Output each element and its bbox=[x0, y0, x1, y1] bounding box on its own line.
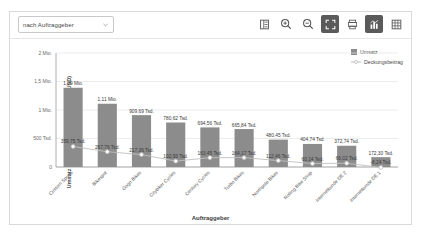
x-axis-title: Auftraggeber bbox=[10, 215, 411, 221]
deckungsbeitrag-point-1[interactable] bbox=[105, 150, 109, 154]
svg-text:480,45 Tsd.: 480,45 Tsd. bbox=[266, 133, 291, 138]
chart-canvas: 0500 Tsd.1 Mio.1,5 Mio.2 Mio.1,39 Mio.1,… bbox=[10, 39, 411, 225]
deckungsbeitrag-point-7[interactable] bbox=[311, 162, 315, 166]
svg-text:909,69 Tsd.: 909,69 Tsd. bbox=[129, 109, 154, 114]
svg-text:694,56 Tsd.: 694,56 Tsd. bbox=[198, 121, 223, 126]
x-tick-6: Northpole Bikes bbox=[252, 170, 280, 198]
legend-toggle-button[interactable] bbox=[255, 15, 273, 33]
deckungsbeitrag-point-0[interactable] bbox=[71, 145, 75, 149]
deckungsbeitrag-point-5[interactable] bbox=[242, 156, 246, 160]
x-tick-8: Internetkunde DE 2 bbox=[315, 170, 348, 203]
chart-view-button[interactable] bbox=[365, 15, 383, 33]
svg-text:1,5 Mio.: 1,5 Mio. bbox=[34, 78, 52, 84]
svg-text:359,75 Tsd.: 359,75 Tsd. bbox=[61, 139, 86, 144]
svg-text:-8,24 Tsd.: -8,24 Tsd. bbox=[370, 160, 391, 165]
svg-text:500 Tsd.: 500 Tsd. bbox=[33, 135, 52, 141]
svg-text:66,02 Tsd.: 66,02 Tsd. bbox=[336, 156, 358, 161]
chart-plot-area: Umsatz (USD) und Deckungsbeitrag (USD) U… bbox=[10, 39, 411, 225]
svg-text:217,36 Tsd.: 217,36 Tsd. bbox=[129, 148, 154, 153]
deckungsbeitrag-point-6[interactable] bbox=[276, 159, 280, 163]
x-tick-4: Century Cycles bbox=[184, 170, 211, 197]
svg-text:172,30 Tsd.: 172,30 Tsd. bbox=[369, 151, 394, 156]
table-view-button[interactable] bbox=[387, 15, 405, 33]
x-tick-5: Turbo Bikes bbox=[223, 170, 245, 192]
x-tick-3: Citybiker Cycles bbox=[149, 170, 177, 198]
zoom-in-button[interactable] bbox=[277, 15, 295, 33]
svg-text:665,84 Tsd.: 665,84 Tsd. bbox=[232, 123, 257, 128]
svg-text:112,46 Tsd.: 112,46 Tsd. bbox=[266, 154, 290, 159]
bar-2[interactable] bbox=[132, 115, 151, 167]
svg-text:0: 0 bbox=[49, 164, 52, 170]
x-tick-0: Custom Sports bbox=[48, 170, 74, 196]
bar-5[interactable] bbox=[235, 129, 254, 167]
deckungsbeitrag-point-4[interactable] bbox=[208, 156, 212, 160]
x-tick-9: Internetkunde DE 1 bbox=[349, 170, 382, 203]
svg-text:404,74 Tsd.: 404,74 Tsd. bbox=[300, 137, 325, 142]
chart-card: nach Auftraggeber bbox=[9, 11, 412, 225]
svg-text:1,11 Mio.: 1,11 Mio. bbox=[98, 97, 117, 102]
deckungsbeitrag-point-3[interactable] bbox=[174, 159, 178, 163]
svg-text:60,14 Tsd.: 60,14 Tsd. bbox=[301, 157, 323, 162]
deckungsbeitrag-point-2[interactable] bbox=[140, 153, 144, 157]
svg-text:2 Mio.: 2 Mio. bbox=[38, 50, 52, 56]
x-tick-7: Rolling Bike Shop bbox=[283, 170, 314, 201]
toolbar-buttons bbox=[255, 15, 405, 33]
x-tick-1: Bikespot bbox=[91, 170, 108, 187]
deckungsbeitrag-point-9[interactable] bbox=[379, 166, 383, 170]
svg-text:372,74 Tsd.: 372,74 Tsd. bbox=[334, 139, 359, 144]
chart-toolbar: nach Auftraggeber bbox=[10, 12, 411, 39]
svg-text:1 Mio.: 1 Mio. bbox=[38, 107, 52, 113]
deckungsbeitrag-point-8[interactable] bbox=[345, 161, 349, 165]
grouping-dropdown-value: nach Auftraggeber bbox=[23, 22, 74, 28]
svg-text:267,76 Tsd.: 267,76 Tsd. bbox=[95, 145, 120, 150]
zoom-out-button[interactable] bbox=[299, 15, 317, 33]
fullscreen-button[interactable] bbox=[321, 15, 339, 33]
chevron-down-icon bbox=[102, 21, 109, 28]
bar-1[interactable] bbox=[98, 104, 117, 167]
svg-text:164,17 Tsd.: 164,17 Tsd. bbox=[232, 151, 257, 156]
bar-4[interactable] bbox=[200, 127, 219, 167]
x-tick-2: Gogo Bikes bbox=[121, 170, 142, 191]
svg-text:102,93 Tsd.: 102,93 Tsd. bbox=[163, 154, 188, 159]
export-button[interactable] bbox=[343, 15, 361, 33]
svg-text:780,62 Tsd.: 780,62 Tsd. bbox=[163, 116, 188, 121]
grouping-dropdown[interactable]: nach Auftraggeber bbox=[18, 16, 114, 33]
bar-0[interactable] bbox=[64, 88, 83, 167]
svg-text:1,39 Mio.: 1,39 Mio. bbox=[63, 81, 83, 86]
svg-text:163,45 Tsd.: 163,45 Tsd. bbox=[198, 151, 223, 156]
